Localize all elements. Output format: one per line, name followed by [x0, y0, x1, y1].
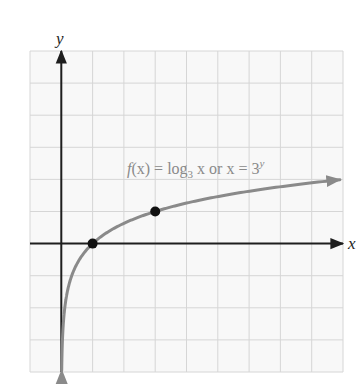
point-1	[88, 239, 98, 249]
x-axis-label: x	[347, 234, 356, 253]
log-function-graph: y x f(x) = log3 x or x = 3y	[0, 0, 364, 389]
annotation-arg: (x) = log	[131, 160, 187, 178]
annotation-exp: y	[258, 157, 264, 169]
point-2	[150, 207, 160, 217]
y-axis-label: y	[54, 29, 64, 48]
annotation-rest: x or x = 3	[193, 160, 259, 177]
function-annotation: f(x) = log3 x or x = 3y	[127, 157, 264, 180]
